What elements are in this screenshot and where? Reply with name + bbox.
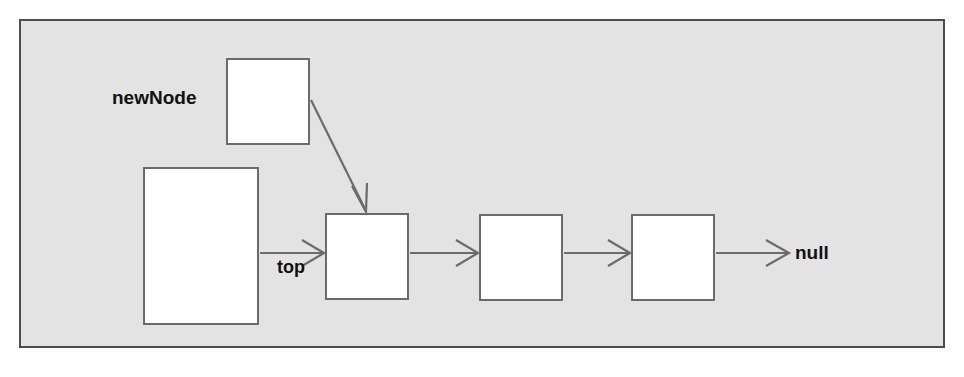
list-node-2 — [479, 214, 563, 301]
label-top-pointer: top — [277, 258, 305, 276]
label-new-node: newNode — [112, 88, 196, 107]
list-node-3 — [631, 214, 715, 301]
label-null-terminator: null — [795, 243, 829, 262]
list-node-1 — [325, 213, 409, 300]
new-node-box — [226, 58, 310, 145]
stack-container-box — [143, 167, 259, 325]
diagram-canvas: newNode top null — [0, 0, 964, 377]
